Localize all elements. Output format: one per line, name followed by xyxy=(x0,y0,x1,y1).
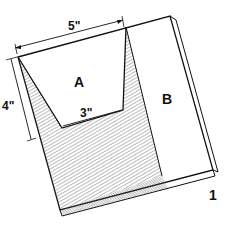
dimension-top-width-label: 5" xyxy=(68,19,80,33)
board-diagram: 5" 4" 3" A B 1 xyxy=(0,0,226,229)
figure-number: 1 xyxy=(209,187,217,203)
dimension-height-label: 4" xyxy=(2,99,14,113)
region-a-label: A xyxy=(74,74,84,90)
dimension-bottom-width-label: 3" xyxy=(80,106,92,120)
region-b-label: B xyxy=(162,91,172,107)
